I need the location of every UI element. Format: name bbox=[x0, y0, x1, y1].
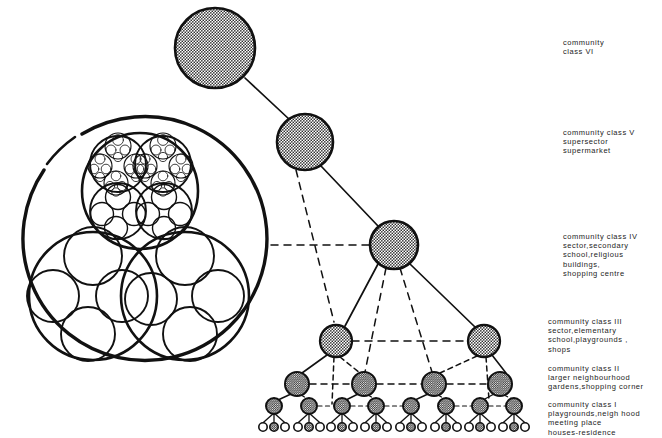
label-class-iii: community class III sector,elementary sc… bbox=[548, 317, 628, 354]
diagram-canvas: community class VI community class V sup… bbox=[0, 0, 662, 438]
label-column: community class VI community class V sup… bbox=[0, 0, 662, 438]
label-class-iv: community class IV sector,secondary scho… bbox=[563, 232, 638, 278]
label-class-v: community class V supersector supermarke… bbox=[563, 128, 635, 156]
label-class-i: community class I playgrounds,neigh hood… bbox=[548, 400, 640, 437]
label-class-ii: community class II larger neighbourhood … bbox=[548, 364, 644, 392]
label-class-vi: community class VI bbox=[563, 38, 604, 56]
